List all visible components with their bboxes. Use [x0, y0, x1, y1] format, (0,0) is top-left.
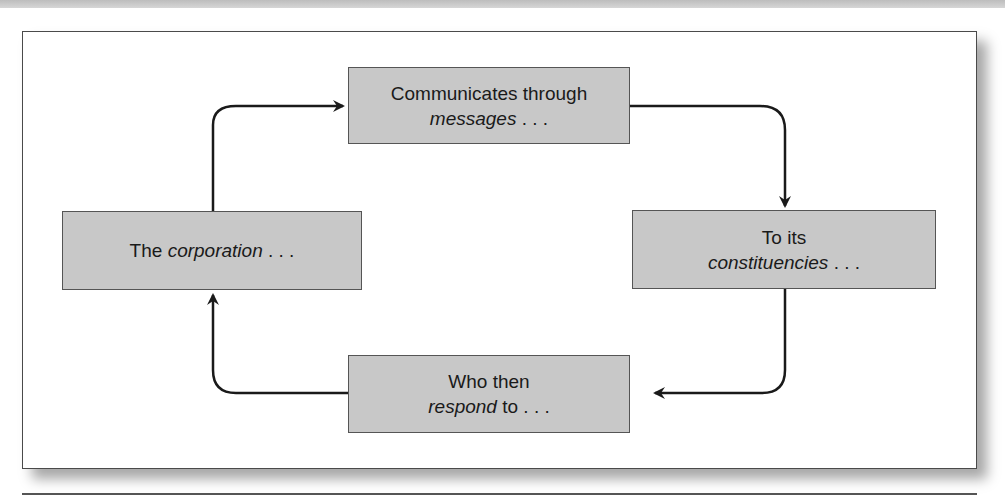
node-right: To its constituencies . . .	[632, 210, 936, 289]
arrow-bottom-to-left	[213, 295, 348, 393]
arrow-left-to-top	[213, 106, 343, 211]
node-left-italic: corporation	[168, 240, 263, 261]
node-right-line1: To its	[762, 225, 806, 250]
node-bottom-italic: respond	[428, 396, 497, 417]
node-top-italic: messages	[430, 108, 517, 129]
node-right-italic: constituencies	[708, 252, 828, 273]
node-top-line1: Communicates through	[391, 81, 587, 106]
arrow-top-to-right	[630, 106, 785, 206]
bottom-rule	[22, 493, 977, 495]
node-bottom: Who then respond to . . .	[348, 355, 630, 433]
node-top: Communicates through messages . . .	[348, 67, 630, 144]
node-bottom-line1: Who then	[448, 369, 529, 394]
arrow-right-to-bottom	[655, 288, 785, 393]
node-left: The corporation . . .	[62, 211, 362, 290]
